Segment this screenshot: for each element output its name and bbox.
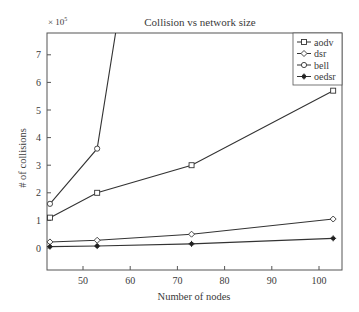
x-tick-label: 50 [78,275,88,286]
chart: Collision vs network size × 105 01234567… [0,0,359,312]
y-axis-label: # of collisions [17,128,28,188]
legend-label-bell: bell [314,60,329,71]
data-series [50,0,333,247]
x-tick-label: 70 [172,275,182,286]
series-line-bell [50,0,123,204]
y-axis-ticks: 01234567 [36,49,51,253]
x-tick-label: 60 [125,275,135,286]
y-tick-label: 4 [36,132,41,143]
y-tick-label: 5 [36,105,41,116]
y-tick-label: 3 [36,160,41,171]
x-tick-label: 80 [220,275,230,286]
x-axis-label: Number of nodes [158,291,231,302]
x-tick-label: 90 [267,275,277,286]
y-multiplier-label: × 105 [48,16,67,27]
y-tick-label: 1 [36,215,41,226]
legend-label-aodv: aodv [314,37,333,48]
x-tick-label: 100 [312,275,327,286]
x-axis-ticks: 5060708090100 [78,266,327,286]
series-line-dsr [50,219,333,242]
y-tick-label: 0 [36,243,41,254]
legend: aodvdsrbelloedsr [293,33,342,85]
legend-label-dsr: dsr [314,48,327,59]
y-tick-label: 6 [36,77,41,88]
y-tick-label: 7 [36,49,41,60]
chart-title: Collision vs network size [144,16,256,28]
legend-label-oedsr: oedsr [314,71,336,82]
y-tick-label: 2 [36,187,41,198]
